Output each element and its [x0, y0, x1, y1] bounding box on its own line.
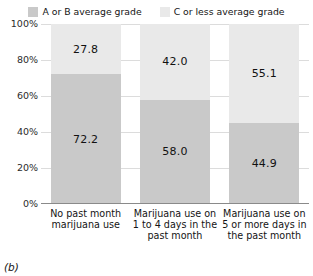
legend-label-a-or-b: A or B average grade [42, 7, 141, 16]
y-axis-tick-40: 40% [17, 127, 38, 137]
bar-stack: 27.8 72.2 [51, 24, 121, 204]
legend-item-c-or-less: C or less average grade [160, 7, 285, 17]
bar-value-label: 42.0 [162, 56, 187, 67]
legend-label-c-or-less: C or less average grade [174, 7, 285, 16]
bar-group-no-past-month[interactable]: 27.8 72.2 [51, 24, 121, 204]
bar-segment-a-or-b[interactable]: 44.9 [229, 123, 299, 204]
y-axis: 100% 80% 60% 40% 20% 0% [0, 24, 38, 204]
bar-value-label: 27.8 [73, 44, 98, 55]
x-axis: No past month marijuana use Marijuana us… [41, 208, 309, 258]
plot-area: 27.8 72.2 42.0 58.0 [41, 24, 309, 204]
bar-stack: 42.0 58.0 [140, 24, 210, 204]
y-axis-tick-80: 80% [17, 55, 38, 65]
y-axis-tick-100: 100% [11, 19, 38, 29]
bar-segment-c-or-less[interactable]: 55.1 [229, 24, 299, 123]
bar-series-container: 27.8 72.2 42.0 58.0 [41, 24, 309, 204]
x-axis-category-label: Marijuana use on 5 or more days in the p… [221, 208, 307, 242]
y-axis-tick-0: 0% [23, 199, 38, 209]
bar-segment-c-or-less[interactable]: 42.0 [140, 24, 210, 100]
y-axis-tick-60: 60% [17, 91, 38, 101]
bar-segment-c-or-less[interactable]: 27.8 [51, 24, 121, 74]
bar-value-label: 44.9 [252, 158, 277, 169]
figure-panel-b: A or B average grade C or less average g… [0, 0, 313, 276]
y-axis-tick-20: 20% [17, 163, 38, 173]
bar-segment-a-or-b[interactable]: 72.2 [51, 74, 121, 204]
chart-legend: A or B average grade C or less average g… [0, 4, 313, 19]
legend-item-a-or-b: A or B average grade [28, 7, 141, 17]
legend-swatch-c-or-less [160, 7, 170, 17]
bar-segment-a-or-b[interactable]: 58.0 [140, 100, 210, 204]
x-axis-baseline [41, 203, 309, 204]
bar-group-1-to-4-days[interactable]: 42.0 58.0 [140, 24, 210, 204]
bar-group-5-or-more-days[interactable]: 55.1 44.9 [229, 24, 299, 204]
figure-panel-label: (b) [4, 261, 19, 273]
legend-swatch-a-or-b [28, 7, 38, 17]
x-axis-category-label: Marijuana use on 1 to 4 days in the past… [132, 208, 218, 242]
bar-value-label: 72.2 [73, 134, 98, 145]
bar-stack: 55.1 44.9 [229, 24, 299, 204]
bar-value-label: 55.1 [252, 68, 277, 79]
bar-value-label: 58.0 [162, 146, 187, 157]
x-axis-category-label: No past month marijuana use [43, 208, 129, 230]
